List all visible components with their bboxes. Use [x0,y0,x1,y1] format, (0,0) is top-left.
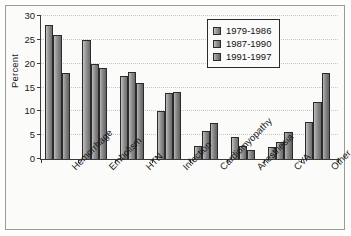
y-tick-mark [37,15,41,16]
bar [82,40,90,159]
y-tick-label: 10 [24,107,35,117]
x-tick-mark [41,159,42,163]
y-tick-label: 30 [24,11,35,21]
legend-swatch-icon [213,40,221,48]
y-tick-mark [37,63,41,64]
bar [53,35,61,159]
y-tick-mark [37,87,41,88]
bar-group [45,16,70,159]
y-tick-label: 5 [30,130,35,140]
y-tick-mark [37,39,41,40]
legend-item-label: 1991-1997 [226,52,271,62]
y-tick-mark [37,134,41,135]
y-tick-mark [37,110,41,111]
legend-swatch-icon [213,27,221,35]
y-axis-title: Percent [9,54,20,88]
chart-legend: 1979-19861987-19901991-1997 [207,19,280,68]
bar [210,123,218,159]
legend-item[interactable]: 1987-1990 [213,37,271,50]
bar [247,150,255,159]
bar-group-bars [45,16,70,159]
bar [45,25,53,159]
legend-item-label: 1979-1986 [226,26,271,36]
y-tick-label: 0 [30,154,35,164]
chart-figure: Percent 051015202530 HemorrhageEmbolismH… [0,0,351,236]
legend-swatch-icon [213,53,221,61]
y-tick-label: 20 [24,59,35,69]
bar-group [157,16,182,159]
legend-item[interactable]: 1991-1997 [213,50,271,63]
bar-group-bars [157,16,182,159]
y-tick-label: 15 [24,83,35,93]
plot-area: 051015202530 HemorrhageEmbolismHTNInfect… [40,16,338,160]
legend-item-label: 1987-1990 [226,39,271,49]
bar [313,102,321,159]
bar-group [305,16,330,159]
bar [322,73,330,159]
legend-item[interactable]: 1979-1986 [213,24,271,37]
y-tick-label: 25 [24,35,35,45]
bar [173,92,181,159]
bar [62,73,70,159]
bar-group-bars [305,16,330,159]
bar [165,93,173,159]
